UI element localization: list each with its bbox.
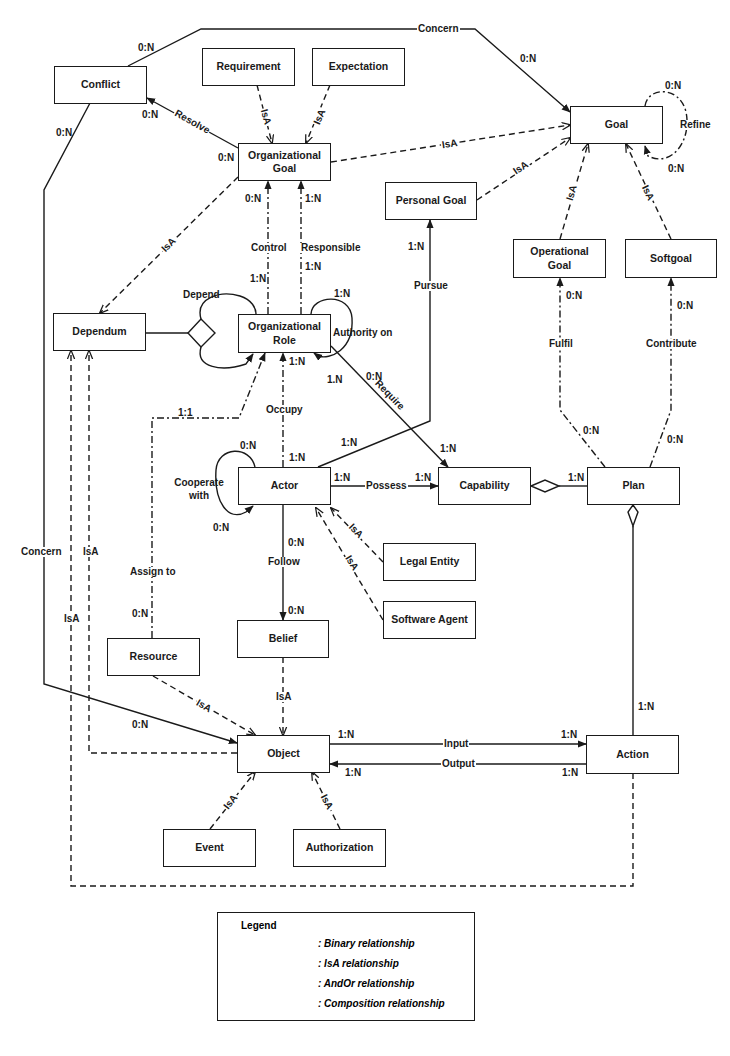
card-conflict-resolve: 0:N: [142, 110, 158, 120]
edge-pursue: [318, 220, 430, 467]
card-output-left: 1:N: [345, 768, 361, 778]
entity-expectation: Expectation: [312, 48, 405, 86]
label-input: Input: [443, 739, 469, 749]
card-pursue-top: 1:N: [408, 242, 424, 252]
label-isa-belief: IsA: [275, 692, 293, 702]
entity-capability: Capability: [438, 467, 531, 505]
card-plan-action: 1:N: [638, 702, 654, 712]
legend-title: Legend: [241, 920, 277, 931]
card-possess-right: 1:N: [415, 473, 431, 483]
card-refine-bottom: 0:N: [668, 164, 684, 174]
label-responsible: Responsible: [300, 243, 361, 253]
card-object-concern: 0:N: [132, 720, 148, 730]
entity-belief: Belief: [237, 620, 329, 658]
card-plan-capability: 1:N: [568, 473, 584, 483]
entity-softgoal: Softgoal: [625, 239, 717, 278]
entity-dependum: Dependum: [53, 313, 146, 351]
card-responsible-bottom: 1:N: [305, 262, 321, 272]
card-refine-top: 0:N: [665, 81, 681, 91]
label-authority-on: Authority on: [333, 328, 392, 338]
card-orggoal-resolve: 0:N: [218, 153, 234, 163]
entity-organizational-goal: Organizational Goal: [238, 143, 331, 181]
label-fulfil: Fulfil: [548, 339, 574, 349]
edge-isa-object-dependum: [89, 351, 237, 753]
capability-diamond: [531, 480, 559, 492]
entity-authorization: Authorization: [293, 829, 386, 867]
legend-item-composition: : Composition relationship: [318, 998, 445, 1009]
label-pursue: Pursue: [413, 281, 449, 291]
legend-item-binary: : Binary relationship: [318, 938, 415, 949]
entity-resource: Resource: [107, 638, 200, 676]
diagram-canvas: [0, 0, 730, 1056]
card-responsible-top: 1:N: [305, 194, 321, 204]
card-require-top: 0:N: [366, 372, 382, 382]
legend-item-isa: : IsA relationship: [318, 958, 399, 969]
card-fulfil-bottom: 0:N: [583, 426, 599, 436]
card-pursue-bottom: 1:N: [341, 438, 357, 448]
card-cooperate-top: 0:N: [240, 441, 256, 451]
dependum-diamond: [188, 319, 215, 347]
card-assign-bottom: 0:N: [132, 609, 148, 619]
entity-event: Event: [163, 829, 256, 867]
card-authority-bottom: 1.N: [327, 375, 343, 385]
card-require-bottom: 1:N: [440, 444, 456, 454]
label-occupy: Occupy: [265, 405, 304, 415]
card-conflict-concern-top: 0:N: [138, 43, 154, 53]
label-refine: Refine: [679, 120, 712, 130]
label-control: Control: [250, 243, 288, 253]
entity-organizational-role: Organizational Role: [238, 314, 331, 353]
label-cooperate-with: Cooperate with: [174, 477, 224, 502]
card-assign-top: 1:1: [178, 408, 192, 418]
card-possess-left: 1:N: [334, 473, 350, 483]
card-control-top: 0:N: [245, 194, 261, 204]
entity-plan: Plan: [587, 467, 680, 505]
entity-personal-goal: Personal Goal: [385, 182, 477, 220]
card-follow-top: 0:N: [288, 538, 304, 548]
label-concern-top: Concern: [417, 24, 460, 34]
label-depend: Depend: [183, 290, 220, 300]
label-follow: Follow: [267, 557, 301, 567]
card-control-bottom: 1:N: [250, 274, 266, 284]
edge-isa-action-dependum: [71, 351, 633, 886]
entity-actor: Actor: [238, 467, 331, 505]
label-isa-object-dependum: IsA: [82, 547, 100, 557]
card-contribute-top: 0:N: [677, 301, 693, 311]
card-occupy-bottom: 1:N: [289, 453, 305, 463]
label-concern-left: Concern: [20, 547, 63, 557]
entity-software-agent: Software Agent: [383, 601, 476, 639]
card-cooperate-bottom: 0:N: [213, 523, 229, 533]
legend-item-andor: : AndOr relationship: [318, 978, 414, 989]
card-output-right: 1:N: [562, 768, 578, 778]
entity-legal-entity: Legal Entity: [383, 543, 476, 581]
card-follow-bottom: 0:N: [288, 606, 304, 616]
card-occupy-top: 1:N: [289, 357, 305, 367]
card-conflict-concern-left: 0:N: [56, 128, 72, 138]
entity-object: Object: [237, 735, 330, 773]
card-input-right: 1:N: [561, 730, 577, 740]
entity-operational-goal: Operational Goal: [513, 239, 606, 278]
card-input-left: 1:N: [338, 730, 354, 740]
label-isa-action-dependum: IsA: [63, 614, 81, 624]
label-contribute: Contribute: [645, 339, 698, 349]
entity-action: Action: [586, 735, 679, 774]
entity-conflict: Conflict: [54, 66, 147, 104]
entity-goal: Goal: [570, 106, 663, 144]
card-goal-concern: 0:N: [520, 54, 536, 64]
edge-fulfil: [560, 278, 605, 467]
legend: Legend : Binary relationship : IsA relat…: [217, 912, 475, 1021]
label-assign-to: Assign to: [129, 567, 177, 577]
card-fulfil-top: 0:N: [566, 291, 582, 301]
entity-requirement: Requirement: [202, 48, 295, 86]
plan-diamond: [628, 505, 638, 526]
card-contribute-bottom: 0:N: [667, 435, 683, 445]
label-possess: Possess: [365, 481, 408, 491]
label-output: Output: [441, 759, 476, 769]
card-authority-top: 1:N: [334, 289, 350, 299]
